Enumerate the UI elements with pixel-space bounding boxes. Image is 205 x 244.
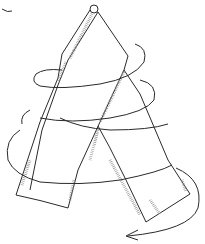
stray-stroke (2, 9, 12, 12)
tape-measure-illustration (0, 0, 205, 244)
right-tape-strip (98, 12, 190, 222)
measurement-ticks (22, 14, 186, 215)
hanging-ring (90, 5, 98, 13)
spiral-loops (7, 44, 172, 184)
